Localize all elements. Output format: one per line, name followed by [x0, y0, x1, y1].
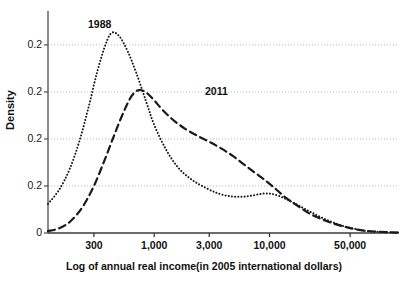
- y-tick-label: 0.2: [10, 86, 42, 96]
- series-label-1988: 1988: [88, 18, 111, 30]
- x-tick-label: 10,000: [230, 240, 310, 251]
- y-tick-label: 0.2: [10, 180, 42, 190]
- density-chart: Density 00.20.20.20.2 3001,0003,00010,00…: [0, 0, 408, 282]
- x-axis-title: Log of annual real income(in 2005 intern…: [0, 260, 408, 272]
- y-tick-label: 0.2: [10, 133, 42, 143]
- y-tick-label: 0.2: [10, 39, 42, 49]
- series-line-2011: [48, 90, 398, 233]
- series-label-2011: 2011: [205, 85, 228, 97]
- y-tick-label: 0: [10, 227, 42, 237]
- x-tick-label: 50,000: [310, 240, 390, 251]
- series-line-1988: [48, 32, 398, 232]
